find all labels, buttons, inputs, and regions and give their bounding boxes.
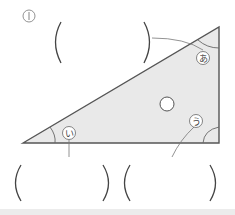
svg-text:う: う [192, 117, 201, 127]
right-triangle [23, 27, 219, 143]
svg-text:い: い [65, 129, 74, 139]
problem-number [23, 10, 35, 22]
footer-band [0, 209, 235, 215]
angle-label-u: う [190, 115, 203, 128]
svg-text:あ: あ [199, 54, 208, 64]
angle-label-i: い [63, 127, 76, 140]
blank-circle-marker [160, 97, 174, 111]
angle-label-a: あ [197, 52, 210, 65]
answer-box-i[interactable] [16, 165, 109, 201]
answer-box-a[interactable] [56, 22, 150, 63]
answer-box-u[interactable] [125, 165, 216, 201]
worksheet-figure: あ い う [0, 0, 235, 215]
